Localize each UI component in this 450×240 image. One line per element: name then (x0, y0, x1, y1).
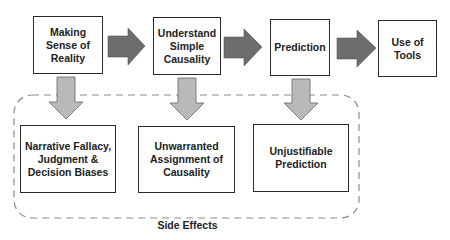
box-prediction: Prediction (270, 19, 330, 76)
box-label: Unjustifiable Prediction (269, 145, 332, 171)
box-label: Understand Simple Causality (158, 27, 216, 66)
box-narrative-fallacy: Narrative Fallacy, Judgment & Decision B… (20, 125, 116, 193)
down-arrow-icon (284, 79, 318, 120)
side-effects-label: Side Effects (140, 219, 235, 231)
box-label: Prediction (274, 41, 325, 54)
down-arrow-icon (170, 78, 204, 120)
box-label: Narrative Fallacy, Judgment & Decision B… (25, 140, 111, 179)
box-unjustifiable-prediction: Unjustifiable Prediction (253, 124, 349, 192)
box-making-sense-of-reality: Making Sense of Reality (33, 16, 103, 74)
right-arrow-icon (224, 29, 262, 66)
right-arrow-icon (337, 30, 376, 67)
box-label: Unwarranted Assignment of Causality (150, 140, 223, 179)
box-unwarranted-assignment-of-causality: Unwarranted Assignment of Causality (138, 126, 235, 193)
down-arrow-icon (49, 77, 83, 119)
box-label: Use of Tools (391, 36, 423, 62)
right-arrow-icon (108, 28, 145, 65)
box-use-of-tools: Use of Tools (378, 20, 437, 77)
box-understand-simple-causality: Understand Simple Causality (153, 17, 221, 75)
box-label: Making Sense of Reality (46, 26, 90, 65)
